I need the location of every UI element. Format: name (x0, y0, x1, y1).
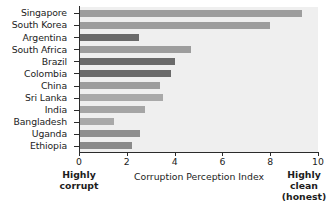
bar (79, 34, 139, 41)
plot-area (79, 7, 318, 152)
x-axis-tick-label: 2 (124, 157, 130, 166)
x-axis-tick-label: 8 (267, 157, 273, 166)
bar (79, 106, 145, 113)
y-axis-category-labels: SingaporeSouth KoreaArgentinaSouth Afric… (0, 7, 71, 152)
category-label: South Korea (0, 19, 71, 31)
annotation-highly-clean-line2: clean (276, 180, 332, 191)
y-axis-tick (74, 134, 79, 135)
bar (79, 130, 140, 137)
chart-figure: SingaporeSouth KoreaArgentinaSouth Afric… (0, 0, 332, 210)
bar-row (79, 116, 318, 128)
y-axis-tick (74, 25, 79, 26)
category-label: Sri Lanka (0, 92, 71, 104)
bar-series (79, 7, 318, 152)
y-axis-line (79, 6, 80, 153)
y-axis-tick (74, 13, 79, 14)
bar (79, 46, 191, 53)
annotation-highly-corrupt-line2: corrupt (42, 180, 116, 191)
annotation-highly-corrupt: Highly corrupt (42, 169, 116, 191)
bar (79, 58, 175, 65)
y-axis-tick (74, 86, 79, 87)
bar-row (79, 43, 318, 55)
x-axis-tick-label: 0 (76, 157, 82, 166)
annotation-highly-clean-line3: (honest) (276, 191, 332, 202)
bar-row (79, 92, 318, 104)
annotation-highly-clean: Highly clean (honest) (276, 169, 332, 202)
annotation-highly-corrupt-line1: Highly (42, 169, 116, 180)
y-axis-tick (74, 110, 79, 111)
bar-row (79, 31, 318, 43)
bar-row (79, 7, 318, 19)
y-axis-tick (74, 98, 79, 99)
bar (79, 142, 132, 149)
y-axis-tick (74, 61, 79, 62)
bar-row (79, 55, 318, 67)
category-label: Uganda (0, 128, 71, 140)
bar (79, 70, 171, 77)
category-label: India (0, 104, 71, 116)
bar-row (79, 19, 318, 31)
bar-row (79, 79, 318, 91)
category-label: Colombia (0, 67, 71, 79)
annotation-highly-clean-line1: Highly (276, 169, 332, 180)
category-label: Argentina (0, 31, 71, 43)
bar-row (79, 104, 318, 116)
bar-row (79, 128, 318, 140)
bar-row (79, 67, 318, 79)
bar (79, 10, 302, 17)
bar (79, 22, 270, 29)
x-axis-tick-label: 6 (219, 157, 225, 166)
category-label: Ethiopia (0, 140, 71, 152)
bar (79, 118, 114, 125)
x-axis-tick-label: 4 (172, 157, 178, 166)
x-axis-tick-label: 10 (312, 157, 324, 166)
category-label: Brazil (0, 55, 71, 67)
y-axis-tick (74, 146, 79, 147)
bar (79, 82, 160, 89)
y-axis-tick (74, 49, 79, 50)
y-axis-tick (74, 122, 79, 123)
category-label: China (0, 79, 71, 91)
x-axis-line (79, 152, 319, 153)
category-label: Bangladesh (0, 116, 71, 128)
y-axis-tick (74, 73, 79, 74)
bar-row (79, 140, 318, 152)
y-axis-tick (74, 37, 79, 38)
bar (79, 94, 163, 101)
category-label: South Africa (0, 43, 71, 55)
category-label: Singapore (0, 7, 71, 19)
